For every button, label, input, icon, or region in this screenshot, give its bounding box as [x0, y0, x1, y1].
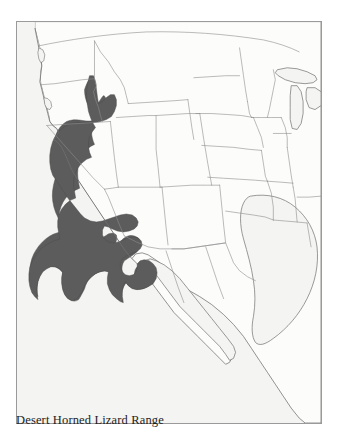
lake-huron-erie — [306, 88, 321, 110]
range-map-figure — [16, 21, 322, 424]
lake-michigan — [290, 86, 303, 130]
map-svg — [17, 22, 321, 423]
map-caption: Desert Horned Lizard Range — [16, 413, 164, 428]
